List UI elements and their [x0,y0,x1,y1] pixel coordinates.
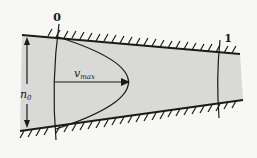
diagram-canvas: 0 1 vmax n0 [0,0,257,158]
section-0-label: 0 [53,11,61,24]
section-1-label: 1 [224,32,232,45]
